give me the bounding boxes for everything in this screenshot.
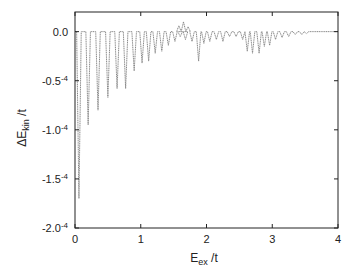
x-tick-label: 4 xyxy=(335,233,341,245)
chart: 01234 0.0-0.5-4-1.0-4-1.5-4-2.0-4 Eex /t… xyxy=(0,0,350,274)
x-tick-label: 0 xyxy=(72,233,78,245)
x-axis: 01234 xyxy=(72,12,341,245)
y-tick-label: -1.5-4 xyxy=(42,172,69,185)
y-tick-label: -0.5-4 xyxy=(42,74,69,87)
x-tick-label: 3 xyxy=(269,233,275,245)
y-tick-label: 0.0 xyxy=(53,26,68,38)
y-axis-label: ΔEkin /t xyxy=(15,109,31,147)
x-tick-label: 2 xyxy=(203,233,209,245)
series-path xyxy=(75,22,338,199)
x-axis-label: Eex /t xyxy=(190,251,218,267)
plot-frame xyxy=(75,12,338,228)
y-tick-label: -2.0-4 xyxy=(42,221,69,234)
y-tick-label: -1.0-4 xyxy=(42,123,69,136)
data-series-line xyxy=(75,22,338,199)
x-tick-label: 1 xyxy=(138,233,144,245)
y-axis: 0.0-0.5-4-1.0-4-1.5-4-2.0-4 xyxy=(42,26,338,234)
